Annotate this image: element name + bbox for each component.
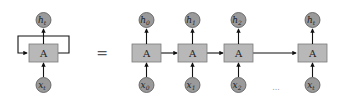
input-sub: 2 bbox=[237, 84, 242, 91]
input-sub: 0 bbox=[146, 84, 150, 91]
output-sub: 2 bbox=[237, 19, 242, 26]
unrolled-rnn: A h0 x0 A h1 x1 A h2 x bbox=[132, 13, 327, 93]
unrolled-cell-2: A h2 x2 bbox=[224, 13, 253, 93]
unrolled-cell-t: A ht xt bbox=[298, 13, 327, 93]
cell-label: A bbox=[188, 48, 197, 59]
output-sub: 1 bbox=[192, 19, 196, 26]
cell-label: A bbox=[39, 48, 48, 59]
unrolled-cell-1: A h1 x1 bbox=[178, 13, 207, 93]
ellipsis: ... bbox=[272, 83, 280, 92]
rnn-diagram: A ht xt = A h0 x0 A bbox=[0, 0, 347, 100]
cell-label: A bbox=[234, 48, 243, 59]
folded-rnn: A ht xt bbox=[18, 13, 69, 93]
unrolled-cell-0: A h0 x0 bbox=[132, 13, 161, 93]
cell-label: A bbox=[308, 48, 317, 59]
input-sub: 1 bbox=[192, 84, 196, 91]
equals-sign: = bbox=[96, 45, 108, 61]
cell-label: A bbox=[142, 48, 151, 59]
output-sub: 0 bbox=[146, 19, 150, 26]
